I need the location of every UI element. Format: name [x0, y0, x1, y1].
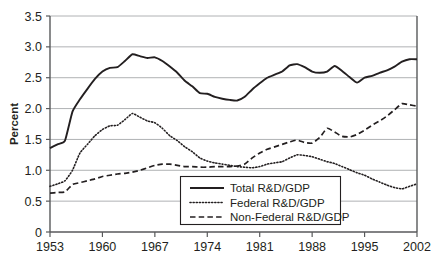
x-tick-label: 1974: [193, 240, 221, 254]
x-tick-label: 1953: [36, 240, 64, 254]
y-tick-label: 3.0: [25, 40, 42, 54]
legend: Total R&D/GDPFederal R&D/GDPNon-Federal …: [181, 177, 350, 225]
x-tick-label: 1967: [141, 240, 169, 254]
y-tick-label: 1.0: [25, 164, 42, 178]
y-axis-title: Percent: [8, 103, 20, 145]
legend-label: Federal R&D/GDP: [230, 197, 325, 209]
y-tick-label: 1.5: [25, 133, 42, 147]
legend-label: Total R&D/GDP: [230, 182, 310, 194]
y-tick-label: 2.5: [25, 71, 42, 85]
legend-label: Non-Federal R&D/GDP: [230, 211, 350, 223]
y-tick-label: 3.5: [25, 10, 42, 24]
chart-canvas: 00.51.01.52.02.53.03.5 19531960196719741…: [0, 0, 443, 263]
y-tick-label: 0.5: [25, 195, 42, 209]
rd-gdp-line-chart: 00.51.01.52.02.53.03.5 19531960196719741…: [0, 0, 443, 263]
x-tick-label: 1960: [89, 240, 117, 254]
x-tick-label: 2002: [403, 240, 431, 254]
x-tick-label: 1981: [246, 240, 274, 254]
x-tick-label: 1995: [351, 240, 379, 254]
y-tick-label: 2.0: [25, 102, 42, 116]
x-tick-label: 1988: [298, 240, 326, 254]
y-tick-label: 0: [35, 226, 42, 240]
